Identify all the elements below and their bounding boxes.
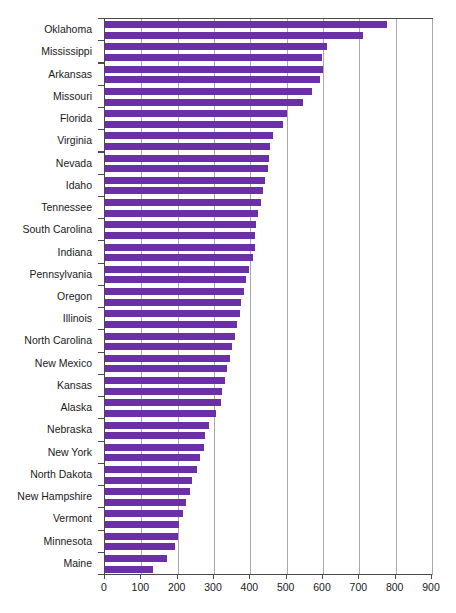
bar bbox=[105, 288, 244, 295]
y-tick-mark bbox=[98, 174, 104, 175]
y-tick-mark bbox=[98, 530, 104, 531]
category-label: Minnesota bbox=[0, 536, 92, 546]
bar bbox=[105, 477, 192, 484]
category-label: Nevada bbox=[0, 158, 92, 168]
x-tick-mark bbox=[286, 574, 287, 579]
category-label: Idaho bbox=[0, 180, 92, 190]
y-tick-mark bbox=[98, 129, 104, 130]
category-label: Oregon bbox=[0, 291, 92, 301]
bar bbox=[105, 165, 268, 172]
bar bbox=[105, 399, 221, 406]
category-label: Tennessee bbox=[0, 202, 92, 212]
y-tick-mark bbox=[98, 218, 104, 219]
y-tick-mark bbox=[98, 441, 104, 442]
x-tick-label: 400 bbox=[241, 581, 259, 593]
category-label: Alaska bbox=[0, 402, 92, 412]
bar bbox=[105, 199, 261, 206]
x-tick-label: 900 bbox=[422, 581, 440, 593]
y-tick-mark bbox=[98, 396, 104, 397]
x-tick-mark bbox=[177, 574, 178, 579]
category-label: Kansas bbox=[0, 380, 92, 390]
y-tick-mark bbox=[98, 240, 104, 241]
bar bbox=[105, 76, 320, 83]
category-label: Oklahoma bbox=[0, 24, 92, 34]
y-tick-mark bbox=[98, 352, 104, 353]
bar bbox=[105, 555, 167, 562]
plot-wrapper: OklahomaMississippiArkansasMissouriFlori… bbox=[0, 0, 456, 613]
bar bbox=[105, 343, 232, 350]
category-label: Florida bbox=[0, 113, 92, 123]
category-axis-labels: OklahomaMississippiArkansasMissouriFlori… bbox=[0, 18, 100, 574]
plot-area bbox=[104, 18, 433, 575]
y-tick-mark bbox=[98, 62, 104, 63]
category-label: Indiana bbox=[0, 247, 92, 257]
x-tick-mark bbox=[249, 574, 250, 579]
x-tick-mark bbox=[140, 574, 141, 579]
category-label: North Dakota bbox=[0, 469, 92, 479]
y-tick-mark bbox=[98, 507, 104, 508]
gridline bbox=[432, 19, 433, 575]
y-tick-mark bbox=[98, 463, 104, 464]
y-tick-mark bbox=[98, 40, 104, 41]
bar bbox=[105, 88, 312, 95]
bar bbox=[105, 444, 204, 451]
bar bbox=[105, 232, 255, 239]
x-tick-mark bbox=[104, 574, 105, 579]
bar bbox=[105, 521, 179, 528]
x-tick-label: 800 bbox=[386, 581, 404, 593]
bar bbox=[105, 121, 283, 128]
y-tick-mark bbox=[98, 151, 104, 152]
y-tick-mark bbox=[98, 18, 104, 19]
x-tick-mark bbox=[322, 574, 323, 579]
bar bbox=[105, 422, 209, 429]
x-tick-label: 600 bbox=[313, 581, 331, 593]
category-label: New York bbox=[0, 447, 92, 457]
bar-chart: OklahomaMississippiArkansasMissouriFlori… bbox=[0, 0, 456, 613]
category-label: Virginia bbox=[0, 135, 92, 145]
bar bbox=[105, 432, 205, 439]
bar bbox=[105, 99, 303, 106]
category-label: Missouri bbox=[0, 91, 92, 101]
y-tick-mark bbox=[98, 263, 104, 264]
bar bbox=[105, 365, 227, 372]
gridline bbox=[396, 19, 397, 575]
category-label: Pennsylvania bbox=[0, 269, 92, 279]
bar bbox=[105, 377, 225, 384]
bar bbox=[105, 533, 178, 540]
bar bbox=[105, 32, 363, 39]
category-label: Arkansas bbox=[0, 69, 92, 79]
x-tick-label: 300 bbox=[204, 581, 222, 593]
x-axis-line bbox=[104, 574, 432, 575]
category-label: Illinois bbox=[0, 313, 92, 323]
y-tick-mark bbox=[98, 196, 104, 197]
x-tick-label: 500 bbox=[277, 581, 295, 593]
bar bbox=[105, 266, 249, 273]
category-label: Mississippi bbox=[0, 46, 92, 56]
category-label: Nebraska bbox=[0, 424, 92, 434]
bar bbox=[105, 155, 269, 162]
bar bbox=[105, 110, 287, 117]
bar bbox=[105, 355, 230, 362]
bar bbox=[105, 543, 175, 550]
gridline bbox=[359, 19, 360, 575]
y-tick-mark bbox=[98, 418, 104, 419]
x-tick-mark bbox=[395, 574, 396, 579]
y-tick-mark bbox=[98, 107, 104, 108]
category-label: New Mexico bbox=[0, 358, 92, 368]
bar bbox=[105, 187, 263, 194]
bar bbox=[105, 210, 258, 217]
bar bbox=[105, 321, 237, 328]
bar bbox=[105, 221, 256, 228]
x-tick-mark bbox=[213, 574, 214, 579]
y-tick-mark bbox=[98, 307, 104, 308]
category-label: New Hampshire bbox=[0, 491, 92, 501]
x-tick-mark bbox=[358, 574, 359, 579]
y-tick-mark bbox=[98, 552, 104, 553]
bar bbox=[105, 566, 153, 573]
bar bbox=[105, 454, 200, 461]
bar bbox=[105, 276, 246, 283]
bar bbox=[105, 21, 387, 28]
y-tick-mark bbox=[98, 329, 104, 330]
category-label: North Carolina bbox=[0, 335, 92, 345]
y-tick-mark bbox=[98, 285, 104, 286]
